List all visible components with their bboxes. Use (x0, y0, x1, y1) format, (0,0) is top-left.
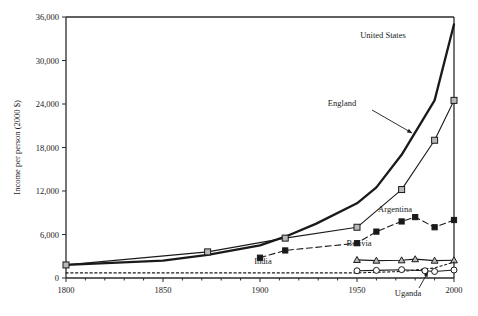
data-point-england (63, 262, 69, 268)
x-tick-label: 1850 (155, 285, 172, 295)
series-line-uganda (357, 270, 454, 272)
y-tick-label: 30,000 (36, 56, 59, 66)
data-point-argentina (413, 215, 418, 220)
series-label-bolivia: Bolivia (346, 238, 371, 248)
y-tick-label: 6,000 (40, 230, 59, 240)
data-point-england (451, 97, 457, 103)
x-tick-label: 2000 (446, 285, 463, 295)
series-label-argentina: Argentina (378, 204, 412, 214)
data-point-argentina (374, 229, 379, 234)
series-line-england (66, 100, 454, 265)
line-chart: 06,00012,00018,00024,00030,00036,0001800… (0, 0, 478, 316)
x-tick-label: 1800 (58, 285, 75, 295)
data-point-uganda (373, 267, 379, 273)
y-tick-label: 24,000 (36, 99, 59, 109)
y-tick-label: 0 (55, 273, 59, 283)
x-tick-label: 1900 (252, 285, 269, 295)
x-tick-label: 1950 (349, 285, 366, 295)
data-point-uganda (451, 267, 457, 273)
series-label-united-states: United States (360, 30, 406, 40)
data-point-uganda (432, 268, 438, 274)
series-label-uganda: Uganda (395, 288, 422, 298)
y-tick-label: 12,000 (36, 186, 59, 196)
series-line-bolivia (357, 259, 454, 261)
y-tick-label: 36,000 (36, 12, 59, 22)
series-line-united-states (66, 24, 454, 265)
series-label-india: India (254, 256, 272, 266)
data-point-england (432, 137, 438, 143)
series-label-england: England (328, 98, 357, 108)
data-point-england (399, 187, 405, 193)
data-point-argentina (432, 225, 437, 230)
data-point-uganda (354, 268, 360, 274)
data-point-england (354, 224, 360, 230)
chart-container: 06,00012,00018,00024,00030,00036,0001800… (0, 0, 478, 316)
data-point-argentina (283, 248, 288, 253)
data-point-argentina (451, 217, 456, 222)
y-axis-title: Income per person (2000 $) (12, 100, 22, 195)
data-point-england (282, 235, 288, 241)
annotation-arrow-england (372, 110, 412, 133)
data-point-uganda (399, 267, 405, 273)
data-point-argentina (399, 219, 404, 224)
data-point-england (205, 249, 211, 255)
y-tick-label: 18,000 (36, 143, 59, 153)
